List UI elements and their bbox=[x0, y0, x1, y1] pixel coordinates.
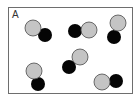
molecule bbox=[94, 74, 123, 90]
light-atom bbox=[26, 63, 42, 79]
dark-atom bbox=[68, 24, 82, 38]
dark-atom bbox=[107, 30, 121, 44]
molecule bbox=[107, 15, 126, 44]
molecule-layer bbox=[0, 0, 137, 101]
light-atom bbox=[72, 49, 88, 65]
light-atom bbox=[25, 20, 41, 36]
molecule bbox=[62, 49, 88, 74]
molecule bbox=[68, 22, 97, 38]
molecule bbox=[26, 63, 45, 91]
dark-atom bbox=[109, 74, 123, 88]
light-atom bbox=[94, 74, 110, 90]
molecule bbox=[25, 20, 52, 42]
light-atom bbox=[110, 15, 126, 31]
light-atom bbox=[81, 22, 97, 38]
